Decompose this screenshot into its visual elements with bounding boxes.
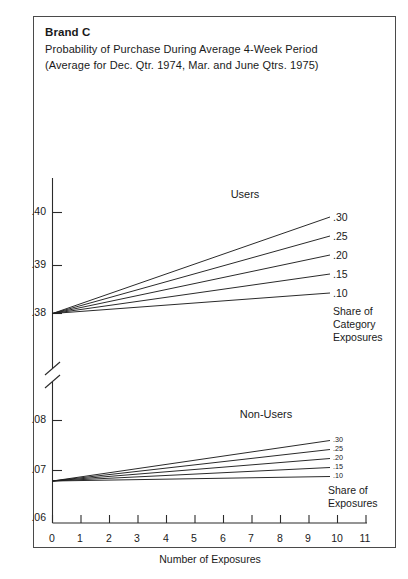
chart-plot-svg: [0, 0, 408, 579]
nonusers-line-30: [53, 441, 331, 482]
users-line-30: [53, 217, 331, 314]
users-line-15: [53, 274, 331, 314]
chart-figure: Brand C Probability of Purchase During A…: [0, 0, 408, 579]
nonusers-line-25: [53, 450, 331, 482]
users-line-10: [53, 293, 331, 314]
users-line-25: [53, 236, 331, 314]
users-line-20: [53, 255, 331, 314]
